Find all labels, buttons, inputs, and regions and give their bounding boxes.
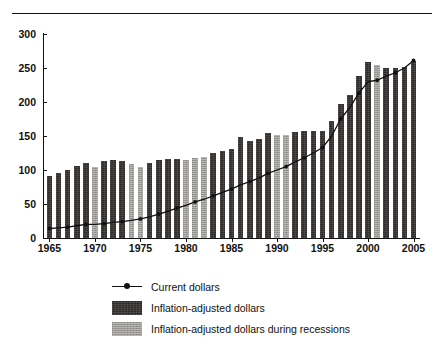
- dark-swatch-key-icon: [112, 301, 142, 315]
- current-dollars-line-series: [44, 34, 419, 238]
- y-tick-label: 50: [8, 199, 36, 209]
- x-tick-mark: [414, 239, 415, 242]
- x-tick-mark: [140, 239, 141, 242]
- x-tick-mark: [323, 239, 324, 242]
- line-marker-point: [102, 222, 106, 226]
- line-marker-point: [175, 206, 179, 210]
- line-marker-point: [339, 117, 343, 121]
- x-tick-mark: [277, 239, 278, 242]
- line-marker-point: [302, 156, 306, 160]
- x-tick-mark: [368, 239, 369, 242]
- line-marker-point: [412, 59, 416, 63]
- line-marker-point: [321, 146, 325, 150]
- y-tick-label: 150: [8, 131, 36, 141]
- line-marker-point: [284, 165, 288, 169]
- line-marker-point: [84, 223, 88, 227]
- y-tick-mark: [43, 238, 47, 239]
- legend-label-inflation-adjusted-recessions: Inflation-adjusted dollars during recess…: [151, 323, 350, 335]
- line-marker-point: [48, 227, 52, 231]
- line-marker-point: [230, 187, 234, 191]
- x-tick-label: 1970: [83, 243, 106, 254]
- line-marker-point: [375, 78, 379, 82]
- line-marker-point: [248, 180, 252, 184]
- y-tick-label: 100: [8, 165, 36, 175]
- line-path-current-dollars: [49, 61, 413, 229]
- line-marker-point: [120, 220, 124, 224]
- chart-figure: 050100150200250300 196519701975198019851…: [0, 0, 443, 354]
- x-tick-label: 1985: [220, 243, 243, 254]
- line-marker-point: [157, 212, 161, 216]
- x-tick-label: 2000: [356, 243, 379, 254]
- line-marker-point: [211, 194, 215, 198]
- line-marker-key-icon: [112, 280, 142, 294]
- line-marker-point: [139, 217, 143, 221]
- y-tick-label: 300: [8, 29, 36, 39]
- legend-item-inflation-adjusted-recessions: Inflation-adjusted dollars during recess…: [112, 318, 432, 339]
- line-marker-point: [266, 172, 270, 176]
- x-tick-label: 1975: [129, 243, 152, 254]
- line-marker-point: [66, 225, 70, 229]
- plot-area: [44, 34, 419, 238]
- x-tick-mark: [95, 239, 96, 242]
- x-tick-label: 1965: [38, 243, 61, 254]
- line-marker-point: [193, 200, 197, 204]
- line-marker-point: [393, 71, 397, 75]
- chart-legend: Current dollars Inflation-adjusted dolla…: [112, 276, 432, 339]
- x-tick-mark: [49, 239, 50, 242]
- x-tick-mark: [232, 239, 233, 242]
- legend-label-inflation-adjusted: Inflation-adjusted dollars: [151, 302, 265, 314]
- x-tick-label: 1995: [311, 243, 334, 254]
- light-swatch-key-icon: [112, 322, 142, 336]
- legend-label-current-dollars: Current dollars: [151, 281, 220, 293]
- y-tick-label: 0: [8, 233, 36, 243]
- y-tick-label: 250: [8, 63, 36, 73]
- top-divider-rule: [12, 13, 432, 14]
- legend-item-inflation-adjusted: Inflation-adjusted dollars: [112, 297, 432, 318]
- line-marker-point: [357, 91, 361, 95]
- x-tick-mark: [186, 239, 187, 242]
- x-tick-label: 1980: [174, 243, 197, 254]
- legend-item-current-dollars: Current dollars: [112, 276, 432, 297]
- x-tick-label: 1990: [265, 243, 288, 254]
- y-tick-label: 200: [8, 97, 36, 107]
- x-tick-label: 2005: [402, 243, 425, 254]
